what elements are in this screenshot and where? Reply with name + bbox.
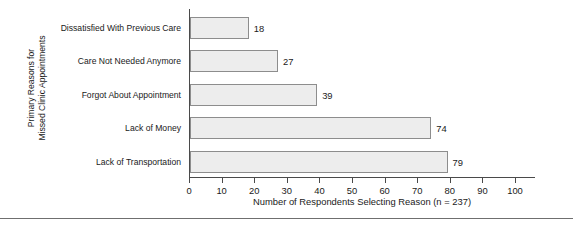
x-tick-label: 90: [477, 185, 487, 196]
bar: [190, 84, 317, 106]
bar-value-label: 74: [436, 123, 446, 134]
bar-row: 27: [190, 50, 536, 72]
category-label: Dissatisfied With Previous Care: [61, 17, 181, 39]
x-tick-label: 70: [412, 185, 422, 196]
x-tick-label: 80: [445, 185, 455, 196]
bar-value-label: 18: [254, 23, 264, 34]
x-tick-label: 60: [379, 185, 389, 196]
bottom-divider: [0, 218, 573, 219]
bar-value-label: 27: [283, 56, 293, 67]
bar-row: 18: [190, 17, 536, 39]
x-tick-label: 50: [347, 185, 357, 196]
bar-row: 39: [190, 84, 536, 106]
bar: [190, 50, 278, 72]
x-tick: [417, 178, 418, 183]
bar-row: 79: [190, 151, 536, 173]
x-tick: [385, 178, 386, 183]
category-label-column: Dissatisfied With Previous CareCare Not …: [0, 9, 185, 178]
category-label: Lack of Money: [125, 117, 181, 139]
category-label: Forgot About Appointment: [82, 84, 181, 106]
plot-area: 1827397479 0102030405060708090100: [189, 9, 535, 178]
category-label: Lack of Transportation: [96, 151, 181, 173]
x-tick-label: 30: [282, 185, 292, 196]
x-tick: [254, 178, 255, 183]
x-tick: [515, 178, 516, 183]
x-tick-label: 10: [216, 185, 226, 196]
bar-chart-figure: Primary Reasons for Missed Clinic Appoin…: [0, 0, 573, 228]
x-tick: [319, 178, 320, 183]
x-tick: [189, 178, 190, 183]
x-tick: [352, 178, 353, 183]
category-label: Care Not Needed Anymore: [78, 50, 181, 72]
x-axis-title: Number of Respondents Selecting Reason (…: [189, 196, 535, 207]
x-tick: [222, 178, 223, 183]
x-tick: [287, 178, 288, 183]
x-tick-label: 40: [314, 185, 324, 196]
bar: [190, 117, 431, 139]
bar-value-label: 39: [322, 89, 332, 100]
x-tick: [482, 178, 483, 183]
bar-value-label: 79: [453, 156, 463, 167]
bar-row: 74: [190, 117, 536, 139]
x-tick-label: 100: [507, 185, 523, 196]
x-tick-label: 0: [186, 185, 191, 196]
x-tick-label: 20: [249, 185, 259, 196]
bar: [190, 17, 249, 39]
x-tick: [450, 178, 451, 183]
bar: [190, 151, 448, 173]
